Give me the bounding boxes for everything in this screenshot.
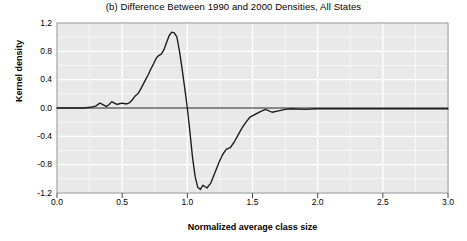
x-tick-label: 2.0 <box>298 197 338 207</box>
y-tick-label: 1.2 <box>22 18 52 28</box>
x-tick-label: 0.0 <box>37 197 77 207</box>
chart-figure: (b) Difference Between 1990 and 2000 Den… <box>0 0 467 241</box>
x-tick-label: 1.5 <box>233 197 273 207</box>
y-tick-label: 0.0 <box>22 103 52 113</box>
y-tick-label: 0.4 <box>22 74 52 84</box>
x-tick-label: 3.0 <box>428 197 467 207</box>
x-tick-label: 2.5 <box>363 197 403 207</box>
y-tick-label: -1.2 <box>22 188 52 198</box>
y-tick-label: 0.8 <box>22 46 52 56</box>
y-tick-label: -0.4 <box>22 131 52 141</box>
y-tick-label: -0.8 <box>22 159 52 169</box>
x-tick-label: 1.0 <box>167 197 207 207</box>
x-tick-label: 0.5 <box>102 197 142 207</box>
